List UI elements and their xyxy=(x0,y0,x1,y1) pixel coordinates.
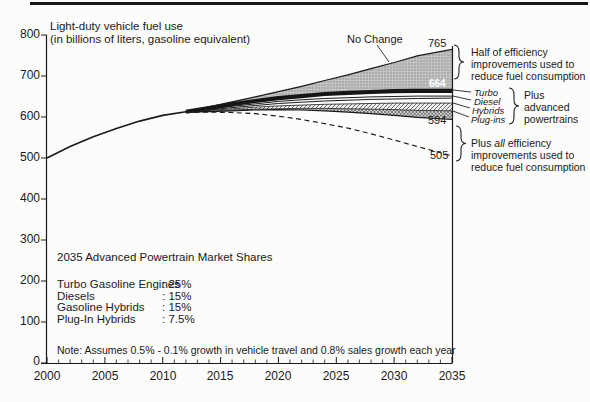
all-efficiency-dashed-curve xyxy=(186,112,452,156)
half-efficiency-note-line2: improvements used to xyxy=(471,59,574,71)
y-tick-400: 400 xyxy=(8,192,40,205)
all-efficiency-post: efficiency xyxy=(505,137,552,149)
end-value-half-efficiency: 664 xyxy=(429,78,446,89)
half-efficiency-note-line3: reduce fuel consumption xyxy=(471,71,585,83)
y-tick-600: 600 xyxy=(8,110,40,123)
figure: Light-duty vehicle fuel use (in billions… xyxy=(0,0,590,402)
plugins-label: Plug-ins xyxy=(471,115,505,126)
all-efficiency-note-line3: reduce fuel consumption xyxy=(471,162,585,174)
inset-row-plugins-value: : 7.5% xyxy=(162,313,195,325)
all-efficiency-note-line1: Plus all efficiency xyxy=(471,138,551,150)
inset-row-hybrids-value: : 15% xyxy=(162,301,191,313)
x-tick-2010: 2010 xyxy=(141,370,185,383)
trunk-curve xyxy=(47,112,186,158)
y-tick-200: 200 xyxy=(8,274,40,287)
diesel-leader-line xyxy=(453,96,471,100)
inset-title: 2035 Advanced Powertrain Market Shares xyxy=(57,251,272,264)
hybrids-leader-line xyxy=(453,103,470,108)
end-value-advanced: 594 xyxy=(428,114,446,126)
all-efficiency-brace xyxy=(456,126,466,161)
x-tick-2000: 2000 xyxy=(25,370,69,383)
plus-advanced-line3: powertrains xyxy=(524,114,578,126)
inset-row-diesels-value: : 15% xyxy=(162,290,191,302)
x-tick-2025: 2025 xyxy=(314,370,358,383)
end-value-all-efficiency: 505 xyxy=(430,149,448,161)
no-change-leader-line xyxy=(377,45,389,62)
all-efficiency-note-line2: improvements used to xyxy=(471,150,574,162)
no-change-label: No Change xyxy=(347,33,403,45)
y-tick-0: 0 xyxy=(8,355,40,368)
chart-title-line1: Light-duty vehicle fuel use xyxy=(50,20,183,33)
x-tick-2030: 2030 xyxy=(372,370,416,383)
y-tick-700: 700 xyxy=(8,69,40,82)
all-efficiency-em: all xyxy=(494,137,505,149)
plus-advanced-line1: Plus xyxy=(524,90,544,102)
x-tick-2035: 2035 xyxy=(430,370,474,383)
half-efficiency-brace xyxy=(454,45,464,79)
half-efficiency-note-line1: Half of efficiency xyxy=(471,47,548,59)
turbo-leader-line xyxy=(453,90,471,92)
x-tick-2005: 2005 xyxy=(83,370,127,383)
end-value-no-change: 765 xyxy=(428,37,446,49)
no-change-wedge xyxy=(186,49,452,111)
y-tick-500: 500 xyxy=(8,151,40,164)
y-tick-100: 100 xyxy=(8,315,40,328)
x-tick-2015: 2015 xyxy=(198,370,242,383)
inset-row-plugins: Plug-In Hybrids: 7.5% xyxy=(57,313,195,326)
chart-title-line2: (in billions of liters, gasoline equival… xyxy=(50,33,250,46)
all-efficiency-pre: Plus xyxy=(471,137,494,149)
advanced-powertrains-brace xyxy=(509,88,519,124)
plus-advanced-line2: advanced xyxy=(524,102,570,114)
inset-row-plugins-label: Plug-In Hybrids xyxy=(57,313,162,326)
x-tick-2020: 2020 xyxy=(256,370,300,383)
assumptions-note: Note: Assumes 0.5% - 0.1% growth in vehi… xyxy=(57,345,456,357)
y-tick-300: 300 xyxy=(8,233,40,246)
y-tick-800: 800 xyxy=(8,28,40,41)
plugins-leader-line xyxy=(453,111,469,117)
inset-row-turbo-value: : 25% xyxy=(162,278,191,290)
